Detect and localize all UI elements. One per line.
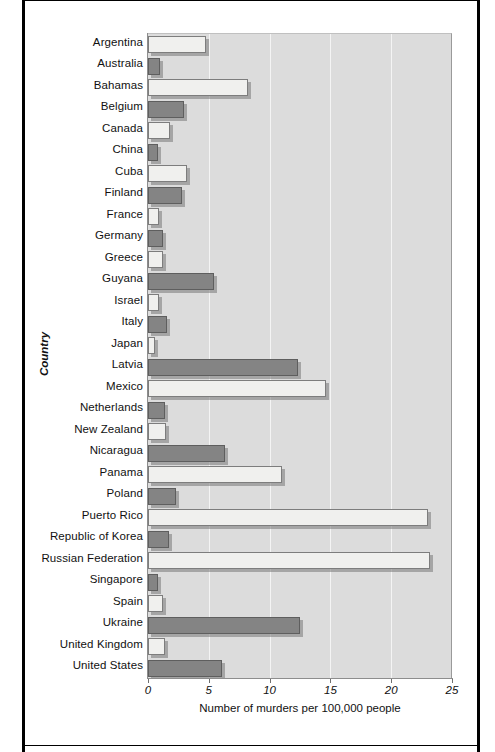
bar-row xyxy=(148,249,451,271)
x-tick-mark xyxy=(148,679,149,683)
bar-row xyxy=(148,529,451,551)
y-tick-label: Japan xyxy=(13,337,143,349)
y-tick-label: Republic of Korea xyxy=(13,530,143,542)
bar-cuba[interactable] xyxy=(148,165,187,182)
bar-row xyxy=(148,99,451,121)
x-tick-label: 25 xyxy=(446,684,459,696)
bar-row xyxy=(148,163,451,185)
bar-row xyxy=(148,206,451,228)
y-tick-label: Spain xyxy=(13,595,143,607)
bar-republic-of-korea[interactable] xyxy=(148,531,169,548)
y-tick-label: New Zealand xyxy=(13,423,143,435)
y-tick-label: Ukraine xyxy=(13,616,143,628)
bar-finland[interactable] xyxy=(148,187,182,204)
plot-area xyxy=(148,33,452,678)
y-tick-label: Bahamas xyxy=(13,79,143,91)
y-tick-label: United Kingdom xyxy=(13,638,143,650)
y-tick-label: Cuba xyxy=(13,165,143,177)
y-tick-label: Poland xyxy=(13,487,143,499)
bar-row xyxy=(148,636,451,658)
bar-row xyxy=(148,615,451,637)
y-tick-label: China xyxy=(13,143,143,155)
bar-italy[interactable] xyxy=(148,316,167,333)
y-axis-title: Country xyxy=(38,304,50,404)
bar-belgium[interactable] xyxy=(148,101,184,118)
bar-nicaragua[interactable] xyxy=(148,445,225,462)
bar-france[interactable] xyxy=(148,208,159,225)
y-axis-line xyxy=(147,33,148,679)
bar-ukraine[interactable] xyxy=(148,617,300,634)
y-tick-label: France xyxy=(13,208,143,220)
bar-row xyxy=(148,572,451,594)
bar-row xyxy=(148,593,451,615)
bar-row xyxy=(148,120,451,142)
bar-row xyxy=(148,335,451,357)
bar-argentina[interactable] xyxy=(148,36,206,53)
bar-canada[interactable] xyxy=(148,122,170,139)
y-tick-label: Netherlands xyxy=(13,401,143,413)
bar-spain[interactable] xyxy=(148,595,163,612)
bar-mexico[interactable] xyxy=(148,380,326,397)
bar-china[interactable] xyxy=(148,144,158,161)
bar-row xyxy=(148,357,451,379)
x-tick-label: 10 xyxy=(263,684,276,696)
y-tick-label: Finland xyxy=(13,186,143,198)
bar-new-zealand[interactable] xyxy=(148,423,166,440)
x-tick-label: 0 xyxy=(145,684,151,696)
bar-latvia[interactable] xyxy=(148,359,298,376)
bar-australia[interactable] xyxy=(148,58,160,75)
x-tick-mark xyxy=(270,679,271,683)
y-tick-label: United States xyxy=(13,659,143,671)
bar-netherlands[interactable] xyxy=(148,402,165,419)
bar-row xyxy=(148,314,451,336)
bar-puerto-rico[interactable] xyxy=(148,509,428,526)
y-tick-label: Israel xyxy=(13,294,143,306)
y-tick-label: Italy xyxy=(13,315,143,327)
x-axis-line xyxy=(148,678,453,679)
bar-row xyxy=(148,228,451,250)
bar-singapore[interactable] xyxy=(148,574,158,591)
y-tick-label: Mexico xyxy=(13,380,143,392)
page-frame-bottom-rule xyxy=(22,745,480,746)
x-tick-label: 5 xyxy=(206,684,212,696)
bar-russian-federation[interactable] xyxy=(148,552,430,569)
x-tick-mark xyxy=(391,679,392,683)
bar-row xyxy=(148,400,451,422)
y-tick-label: Panama xyxy=(13,466,143,478)
page-frame-top-rule xyxy=(22,0,480,1)
bar-row xyxy=(148,421,451,443)
bar-guyana[interactable] xyxy=(148,273,214,290)
bar-row xyxy=(148,77,451,99)
bar-greece[interactable] xyxy=(148,251,163,268)
chart-page: ArgentinaAustraliaBahamasBelgiumCanadaCh… xyxy=(0,0,495,752)
y-tick-label: Puerto Rico xyxy=(13,509,143,521)
x-tick-label: 15 xyxy=(324,684,337,696)
bar-row xyxy=(148,378,451,400)
y-tick-label: Argentina xyxy=(13,36,143,48)
x-tick-mark xyxy=(452,679,453,683)
y-tick-label: Australia xyxy=(13,57,143,69)
bar-row xyxy=(148,464,451,486)
bar-bahamas[interactable] xyxy=(148,79,248,96)
bar-israel[interactable] xyxy=(148,294,159,311)
bar-row xyxy=(148,271,451,293)
x-tick-mark xyxy=(209,679,210,683)
bar-panama[interactable] xyxy=(148,466,282,483)
y-tick-label: Greece xyxy=(13,251,143,263)
bar-row xyxy=(148,658,451,679)
y-tick-label: Latvia xyxy=(13,358,143,370)
bar-row xyxy=(148,292,451,314)
y-tick-label: Germany xyxy=(13,229,143,241)
bar-united-states[interactable] xyxy=(148,660,222,677)
x-tick-label: 20 xyxy=(385,684,398,696)
y-tick-label: Russian Federation xyxy=(13,552,143,564)
bar-poland[interactable] xyxy=(148,488,176,505)
y-tick-label: Canada xyxy=(13,122,143,134)
bar-japan[interactable] xyxy=(148,337,155,354)
bar-row xyxy=(148,34,451,56)
bar-united-kingdom[interactable] xyxy=(148,638,165,655)
bar-row xyxy=(148,142,451,164)
x-axis-title: Number of murders per 100,000 people xyxy=(148,702,452,714)
bar-row xyxy=(148,486,451,508)
bar-germany[interactable] xyxy=(148,230,163,247)
